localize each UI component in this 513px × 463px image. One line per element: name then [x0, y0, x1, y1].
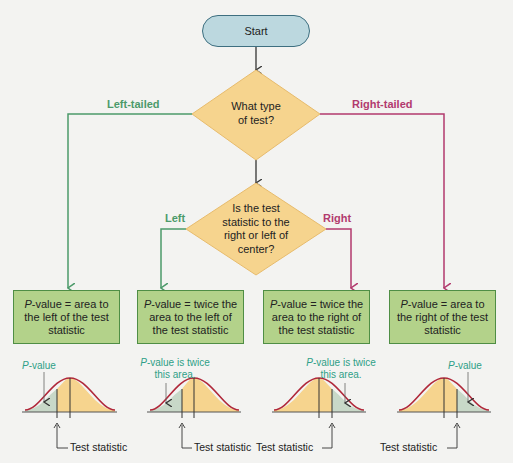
decision-test-type-text: What type of test?	[206, 100, 306, 127]
test-statistic-label-1: Test statistic	[70, 441, 127, 453]
decision-side-text: Is the test statistic to the right or le…	[206, 202, 306, 256]
test-statistic-label-2: Test statistic	[194, 441, 251, 453]
normal-curve-two-tailed-left	[147, 378, 241, 448]
result-box-right-tailed: P-value = area to the right of the test …	[389, 290, 496, 344]
test-statistic-label-4: Test statistic	[380, 441, 437, 453]
result-box-left-tailed: P-value = area to the left of the test s…	[13, 290, 120, 344]
caption-p-value-left: P-value	[22, 360, 56, 372]
label-left: Left	[165, 212, 185, 224]
normal-curve-right-tailed	[397, 372, 491, 448]
label-right-tailed: Right-tailed	[352, 98, 413, 110]
result-box-two-tailed-right: P-value = twice the area to the right of…	[263, 290, 370, 344]
branch-left-line	[161, 229, 186, 288]
caption-twice-area-right: P-value is twice this area.	[306, 357, 376, 381]
label-right: Right	[323, 212, 351, 224]
normal-curve-left-tailed	[22, 372, 117, 448]
normal-curve-two-tailed-right	[272, 378, 366, 448]
caption-p-value-right: P-value	[448, 360, 482, 372]
label-left-tailed: Left-tailed	[107, 98, 160, 110]
branch-right-tailed-line	[320, 114, 444, 288]
result-box-two-tailed-left: P-value = twice the area to the left of …	[137, 290, 244, 344]
test-statistic-label-3: Test statistic	[256, 441, 313, 453]
branch-left-tailed-line	[68, 114, 192, 288]
branch-right-line	[326, 229, 351, 288]
start-label: Start	[244, 25, 267, 37]
start-terminal: Start	[202, 15, 310, 47]
caption-twice-area-left: P-value is twice this area.	[140, 357, 210, 381]
